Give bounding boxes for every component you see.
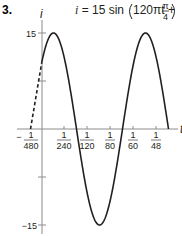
- svg-text:1: 1: [84, 130, 89, 140]
- y-axis-label: i: [40, 7, 43, 21]
- x-tick-1-48: 1 48: [151, 130, 161, 151]
- equation-eq: = 15 sin: [78, 3, 124, 17]
- y-tick-label-neg15: −15: [22, 221, 37, 231]
- svg-text:1: 1: [61, 130, 66, 140]
- svg-text:120: 120: [79, 141, 94, 151]
- svg-text:80: 80: [105, 141, 115, 151]
- left-paren: [130, 4, 133, 19]
- svg-text:1: 1: [153, 130, 158, 140]
- y-tick-label-15: 15: [26, 29, 36, 39]
- x-tick-1-120: 1 120: [79, 130, 94, 151]
- x-tick-neg-1-480: − 1 480: [16, 130, 38, 151]
- x-axis-label: t: [180, 122, 182, 136]
- problem-number: 3.: [2, 3, 12, 17]
- equation-arg: 120πt +: [133, 3, 175, 17]
- svg-text:480: 480: [23, 141, 38, 151]
- equation: i = 15 sin 120πt + π 4: [75, 1, 175, 22]
- y-axis: i 15 −15: [22, 7, 46, 234]
- frac-num: π: [162, 1, 168, 11]
- x-axis: t − 1 480 1 240 1 120 1 80 1: [16, 122, 182, 151]
- svg-text:1: 1: [28, 130, 33, 140]
- x-tick-1-60: 1 60: [128, 130, 138, 151]
- svg-text:−: −: [16, 132, 21, 142]
- x-tick-1-80: 1 80: [105, 130, 115, 151]
- sine-wave-chart: 3. i = 15 sin 120πt + π 4 i 15 −15 t − 1: [0, 0, 182, 236]
- svg-text:i = 15 sin: i = 15 sin: [75, 3, 124, 17]
- dashed-extension: [31, 61, 43, 129]
- svg-text:1: 1: [130, 130, 135, 140]
- svg-text:48: 48: [151, 141, 161, 151]
- svg-text:60: 60: [128, 141, 138, 151]
- frac-den: 4: [163, 12, 168, 22]
- x-tick-1-240: 1 240: [56, 130, 71, 151]
- svg-text:240: 240: [56, 141, 71, 151]
- svg-text:1: 1: [107, 130, 112, 140]
